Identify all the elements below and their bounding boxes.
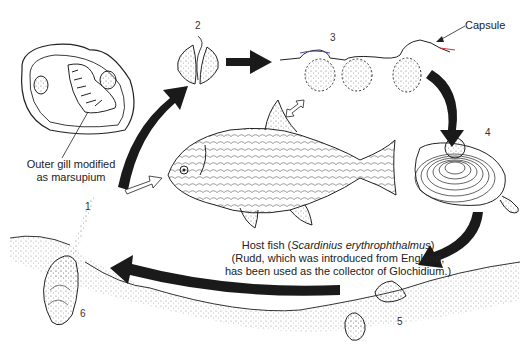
stage-label-5: 5 bbox=[397, 316, 403, 327]
caption-suffix: ) bbox=[431, 239, 435, 251]
arrow-2-to-3 bbox=[226, 50, 272, 74]
host-fish bbox=[168, 100, 396, 228]
stage-label-4: 4 bbox=[485, 127, 491, 138]
hollow-double-arrow bbox=[286, 100, 304, 117]
capsule-label: Capsule bbox=[465, 19, 505, 32]
stage-label-1: 1 bbox=[85, 201, 91, 212]
adult-mussel-interior bbox=[22, 44, 134, 158]
stage-label-2: 2 bbox=[195, 20, 201, 31]
glochidia-stream bbox=[70, 197, 95, 255]
arrow-3-to-4 bbox=[426, 70, 464, 147]
stage-label-6: 6 bbox=[80, 308, 86, 319]
hollow-arrow-to-fish bbox=[125, 176, 162, 194]
stage-label-3: 3 bbox=[330, 32, 336, 43]
caption-line1: Host fish (Scardinius erythrophthalmus) bbox=[213, 239, 463, 252]
caption-prefix: Host fish ( bbox=[242, 239, 292, 251]
host-fish-caption: Host fish (Scardinius erythrophthalmus) … bbox=[213, 239, 463, 278]
juvenile-mussel bbox=[415, 138, 518, 213]
marsupium-label-line2: as marsupium bbox=[16, 171, 126, 184]
marsupium-label-line1: Outer gill modified bbox=[16, 158, 126, 171]
marsupium-label: Outer gill modified as marsupium bbox=[16, 158, 126, 184]
glochidium-open bbox=[178, 36, 219, 84]
caption-line2: (Rudd, which was introduced from England… bbox=[213, 252, 463, 265]
caption-species: Scardinius erythrophthalmus bbox=[291, 239, 430, 251]
caption-line3: has been used as the collector of Glochi… bbox=[213, 265, 463, 278]
